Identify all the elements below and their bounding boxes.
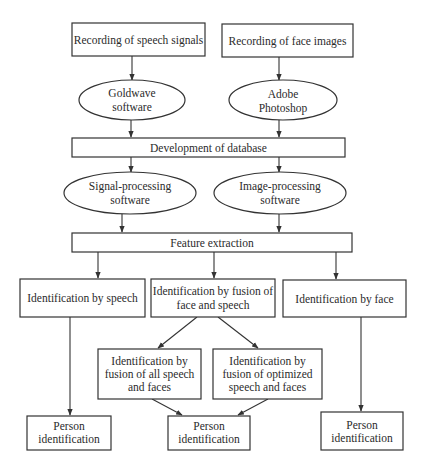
- node-label: fusion of all speech: [105, 368, 195, 381]
- node-label: Photoshop: [259, 102, 308, 115]
- node-label: Signal-processing: [89, 180, 172, 193]
- node-label: face and speech: [177, 299, 250, 312]
- edge-fusion-to-optimized: [218, 317, 258, 348]
- node-label: Identification by speech: [27, 292, 138, 305]
- edge-optimized-to-person: [238, 399, 268, 415]
- node-id-fusion: Identification by fusion of face and spe…: [151, 279, 275, 317]
- node-label: Person: [53, 420, 85, 432]
- node-label: Identification by: [229, 355, 306, 368]
- node-label: fusion of optimized: [222, 368, 312, 381]
- node-label: software: [260, 194, 300, 206]
- node-label: Recording of speech signals: [74, 34, 204, 47]
- node-label: Recording of face images: [229, 35, 347, 48]
- node-label: Image-processing: [239, 180, 321, 193]
- node-label: identification: [331, 432, 393, 444]
- node-label: Identification by: [111, 355, 188, 368]
- node-label: Identification by fusion of: [153, 285, 274, 298]
- node-id-face: Identification by face: [283, 280, 406, 317]
- flowchart: Recording of speech signals Recording of…: [0, 0, 425, 467]
- node-label: and faces: [128, 381, 172, 393]
- node-label: Development of database: [150, 142, 267, 155]
- node-person-center: Person identification: [168, 416, 250, 450]
- node-recording-face: Recording of face images: [222, 24, 353, 57]
- node-person-left: Person identification: [27, 416, 111, 450]
- node-label: software: [110, 194, 150, 206]
- node-label: Person: [193, 420, 225, 432]
- node-feature-extraction: Feature extraction: [72, 233, 352, 252]
- node-label: speech and faces: [229, 381, 307, 394]
- node-label: Identification by face: [295, 293, 393, 306]
- edge-all-to-person: [152, 399, 182, 415]
- node-image-processing: Image-processing software: [214, 172, 346, 214]
- node-signal-processing: Signal-processing software: [64, 172, 196, 214]
- node-database: Development of database: [72, 138, 345, 157]
- node-label: Feature extraction: [170, 237, 254, 249]
- node-goldwave: Goldwave software: [79, 80, 185, 120]
- edge-fusion-to-all: [158, 317, 197, 348]
- node-label: identification: [178, 433, 240, 445]
- node-label: Person: [346, 419, 378, 431]
- node-fusion-optimized: Identification by fusion of optimized sp…: [213, 349, 322, 399]
- node-label: Adobe: [268, 88, 299, 100]
- node-fusion-all: Identification by fusion of all speech a…: [98, 349, 201, 399]
- node-photoshop: Adobe Photoshop: [229, 80, 337, 120]
- node-recording-speech: Recording of speech signals: [72, 23, 205, 56]
- node-label: Goldwave: [108, 87, 155, 99]
- node-id-speech: Identification by speech: [20, 279, 145, 317]
- node-label: identification: [38, 433, 100, 445]
- node-person-right: Person identification: [321, 412, 403, 450]
- node-label: software: [112, 101, 152, 113]
